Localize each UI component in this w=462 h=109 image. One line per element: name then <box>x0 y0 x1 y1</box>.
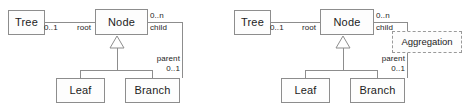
label-parent-role: parent <box>365 55 405 63</box>
class-name-tree: Tree <box>241 17 264 28</box>
class-box-leaf[interactable]: Leaf <box>281 78 330 103</box>
diagram-canvas: Tree Node Leaf Branch 0..1 root 0..n chi… <box>0 0 462 109</box>
label-root-role: root <box>302 24 316 32</box>
note-box-aggregation[interactable]: Aggregation <box>392 31 462 53</box>
right-generalization-triangle <box>336 36 350 48</box>
class-name-node: Node <box>333 17 360 28</box>
label-root-multiplicity: 0..1 <box>270 24 284 32</box>
label-child-multiplicity: 0..n <box>376 12 390 20</box>
class-box-branch[interactable]: Branch <box>350 78 405 103</box>
uml-diagram-right: Tree Node Leaf Branch Aggregation 0..1 r… <box>0 0 462 109</box>
label-child-role: child <box>376 24 393 32</box>
class-name-leaf: Leaf <box>294 85 316 96</box>
note-label-aggregation: Aggregation <box>401 37 452 47</box>
label-parent-multiplicity: 0..1 <box>365 65 405 73</box>
class-box-tree[interactable]: Tree <box>234 10 271 35</box>
class-name-branch: Branch <box>359 85 395 96</box>
class-box-node[interactable]: Node <box>320 9 374 35</box>
